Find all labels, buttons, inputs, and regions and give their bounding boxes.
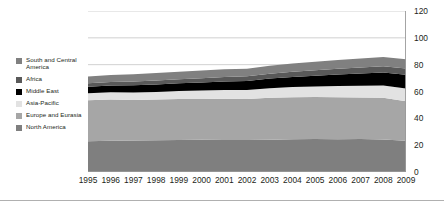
y-axis-tick-label: 20 — [414, 140, 423, 150]
legend-item-label: North America — [26, 123, 66, 130]
legend-swatch-icon — [16, 89, 22, 95]
x-axis-tick-label: 2002 — [238, 175, 257, 185]
legend-item-label: Europe and Eurasia — [26, 111, 82, 118]
x-axis-tick-label: 2004 — [283, 175, 302, 185]
legend-swatch-icon — [16, 77, 22, 83]
x-axis-tick-label: 2001 — [215, 175, 234, 185]
legend-item-label: South and Central America — [26, 56, 77, 70]
legend-swatch-icon — [16, 58, 22, 64]
chart-legend: South and Central AmericaAfricaMiddle Ea… — [16, 56, 94, 135]
x-axis-tick-label: 2000 — [192, 175, 211, 185]
legend-swatch-icon — [16, 101, 22, 107]
y-axis-tick-label: 80 — [414, 60, 423, 70]
legend-item: South and Central America — [16, 56, 94, 70]
legend-item-label: Africa — [26, 75, 42, 82]
legend-item-label: Middle East — [26, 87, 59, 94]
legend-item: Africa — [16, 75, 94, 83]
x-axis-tick-label: 1999 — [170, 175, 189, 185]
x-axis-tick-label: 2009 — [397, 175, 416, 185]
x-axis-tick-label: 1997 — [124, 175, 143, 185]
legend-item: North America — [16, 123, 94, 131]
x-axis-tick-label: 2007 — [351, 175, 370, 185]
legend-item: Europe and Eurasia — [16, 111, 94, 119]
y-axis-tick-label: 60 — [414, 87, 423, 97]
plot-area — [88, 11, 406, 172]
legend-swatch-icon — [16, 125, 22, 131]
x-axis-tick-label: 2008 — [374, 175, 393, 185]
y-axis-tick-label: 100 — [414, 33, 428, 43]
legend-swatch-icon — [16, 113, 22, 119]
chart-figure: South and Central AmericaAfricaMiddle Ea… — [0, 0, 444, 208]
area-series — [88, 139, 406, 172]
stacked-area-svg — [88, 11, 406, 172]
legend-item: Middle East — [16, 87, 94, 95]
bottom-divider — [0, 200, 444, 201]
x-axis-tick-label: 2003 — [260, 175, 279, 185]
y-axis-tick-label: 120 — [414, 6, 428, 16]
legend-item-label: Asia-Pacific — [26, 99, 59, 106]
x-axis: 1995199619971998199920002001200220032004… — [88, 175, 406, 189]
area-series — [88, 97, 406, 141]
x-axis-tick-label: 1998 — [147, 175, 166, 185]
x-axis-tick-label: 2006 — [329, 175, 348, 185]
legend-item: Asia-Pacific — [16, 99, 94, 107]
y-axis-tick-label: 40 — [414, 113, 423, 123]
x-axis-tick-label: 1996 — [101, 175, 120, 185]
x-axis-tick-label: 1995 — [79, 175, 98, 185]
x-axis-tick-label: 2005 — [306, 175, 325, 185]
